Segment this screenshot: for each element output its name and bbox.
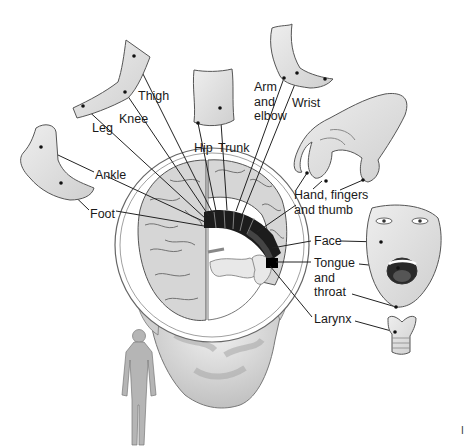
label-thigh: Thigh [138,89,169,103]
diagram-canvas [0,0,465,448]
label-hand-fingers-thumb: Hand, fingers and thumb [294,188,368,217]
label-hip: Hip [194,141,213,155]
foot-illustration [21,125,94,200]
leg-illustration [73,40,150,118]
label-ankle: Ankle [95,168,126,182]
motor-homunculus-diagram: Thigh Knee Leg Hip Trunk Arm and elbow W… [0,0,465,448]
cropped-text-fragment: I [461,425,464,436]
brain-cutaway [115,148,309,342]
label-face: Face [314,234,342,248]
trunk-illustration [193,69,234,126]
label-foot: Foot [90,207,115,221]
human-figure-illustration [122,330,156,446]
face-illustration [366,205,441,309]
larynx-illustration [388,316,416,354]
label-larynx: Larynx [314,312,352,326]
label-tongue-and-throat: Tongue and throat [314,256,355,300]
label-knee: Knee [119,112,148,126]
label-wrist: Wrist [292,96,320,110]
label-trunk: Trunk [218,141,250,155]
arm-illustration [271,24,333,88]
label-leg: Leg [92,121,113,135]
label-arm-and-elbow: Arm and elbow [254,80,287,124]
